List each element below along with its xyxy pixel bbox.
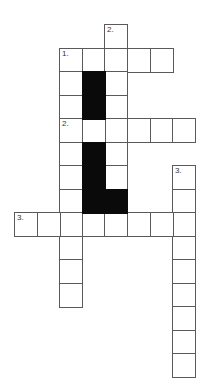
letter-cell[interactable] xyxy=(172,306,196,331)
letter-cell[interactable] xyxy=(59,71,83,96)
letter-cell[interactable] xyxy=(172,330,196,355)
crossword-grid: 1.2.2.3.3. xyxy=(0,0,211,390)
block-cell xyxy=(82,165,106,190)
letter-cell[interactable] xyxy=(104,48,128,73)
letter-cell[interactable]: 2. xyxy=(59,118,83,143)
letter-cell[interactable] xyxy=(172,353,196,378)
letter-cell[interactable] xyxy=(59,283,83,308)
clue-number: 2. xyxy=(107,26,114,34)
letter-cell[interactable] xyxy=(59,236,83,261)
letter-cell[interactable] xyxy=(172,283,196,308)
letter-cell[interactable] xyxy=(59,189,83,214)
letter-cell[interactable]: 2. xyxy=(104,24,128,49)
letter-cell[interactable]: 1. xyxy=(59,48,83,73)
letter-cell[interactable] xyxy=(37,212,61,237)
clue-number: 2. xyxy=(62,120,69,128)
letter-cell[interactable] xyxy=(150,212,174,237)
letter-cell[interactable] xyxy=(172,118,196,143)
letter-cell[interactable] xyxy=(150,48,174,73)
letter-cell[interactable] xyxy=(104,118,128,143)
letter-cell[interactable] xyxy=(172,212,196,237)
letter-cell[interactable] xyxy=(104,212,128,237)
clue-number: 1. xyxy=(62,50,69,58)
letter-cell[interactable] xyxy=(127,118,151,143)
letter-cell[interactable] xyxy=(150,118,174,143)
letter-cell[interactable] xyxy=(104,71,128,96)
block-cell xyxy=(82,189,106,214)
letter-cell[interactable] xyxy=(127,48,151,73)
letter-cell[interactable] xyxy=(82,212,106,237)
letter-cell[interactable] xyxy=(59,259,83,284)
letter-cell[interactable] xyxy=(59,212,83,237)
letter-cell[interactable] xyxy=(104,165,128,190)
letter-cell[interactable] xyxy=(82,48,106,73)
letter-cell[interactable]: 3. xyxy=(172,165,196,190)
clue-number: 3. xyxy=(17,214,24,222)
block-cell xyxy=(104,189,128,214)
letter-cell[interactable] xyxy=(172,259,196,284)
block-cell xyxy=(82,71,106,96)
letter-cell[interactable] xyxy=(127,212,151,237)
letter-cell[interactable] xyxy=(104,95,128,120)
block-cell xyxy=(82,95,106,120)
clue-number: 3. xyxy=(175,167,182,175)
letter-cell[interactable] xyxy=(59,165,83,190)
letter-cell[interactable] xyxy=(59,142,83,167)
letter-cell[interactable] xyxy=(59,95,83,120)
letter-cell[interactable] xyxy=(104,142,128,167)
letter-cell[interactable] xyxy=(172,236,196,261)
letter-cell[interactable] xyxy=(82,118,106,143)
letter-cell[interactable] xyxy=(172,189,196,214)
block-cell xyxy=(82,142,106,167)
letter-cell[interactable]: 3. xyxy=(14,212,38,237)
